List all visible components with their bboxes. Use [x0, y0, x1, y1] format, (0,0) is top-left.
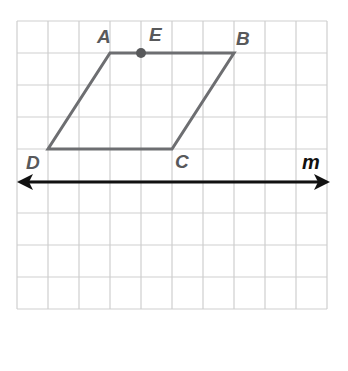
label-b: B: [236, 28, 250, 49]
label-m: m: [302, 151, 320, 173]
line-m: [17, 174, 330, 190]
point-e: [136, 48, 146, 58]
diagram-canvas: A E B D C m: [0, 0, 348, 371]
label-a: A: [96, 26, 111, 47]
label-e: E: [149, 24, 163, 45]
label-c: C: [175, 151, 189, 172]
label-d: D: [26, 152, 40, 173]
grid: [17, 21, 327, 309]
